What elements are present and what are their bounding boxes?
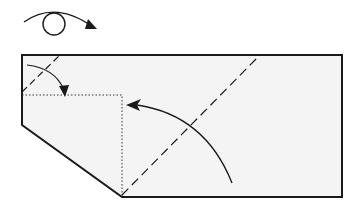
turn-over-icon: [24, 12, 97, 35]
turn-over-circle: [43, 13, 65, 35]
origami-diagram: [0, 0, 359, 210]
diagram-canvas: [0, 0, 359, 210]
paper-shape: [22, 55, 342, 197]
turn-over-arrowhead: [85, 19, 97, 29]
